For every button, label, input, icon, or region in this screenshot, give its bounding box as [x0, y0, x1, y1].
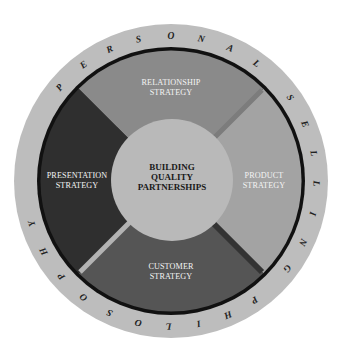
label-line: PRODUCT [245, 171, 284, 180]
label-customer-strategy: CUSTOMER STRATEGY [148, 262, 194, 281]
label-line: CUSTOMER [148, 262, 194, 271]
label-line: STRATEGY [243, 181, 286, 190]
center-label-line: BUILDING [149, 162, 195, 172]
label-relationship-strategy: RELATIONSHIP STRATEGY [142, 78, 201, 97]
label-line: STRATEGY [150, 88, 193, 97]
label-product-strategy: PRODUCT STRATEGY [243, 171, 286, 190]
label-line: STRATEGY [56, 181, 99, 190]
ring-letter: L [311, 180, 321, 187]
center-label-line: PARTNERSHIPS [138, 182, 207, 192]
label-line: STRATEGY [150, 272, 193, 281]
ring-letter: L [165, 321, 172, 331]
personal-selling-philosophy-diagram: RELATIONSHIP STRATEGY PRESENTATION STRAT… [0, 0, 347, 355]
center-label-line: QUALITY [151, 172, 194, 182]
ring-letter: O [168, 31, 175, 41]
label-line: PRESENTATION [47, 171, 108, 180]
label-presentation-strategy: PRESENTATION STRATEGY [47, 171, 108, 190]
label-line: RELATIONSHIP [142, 78, 201, 87]
